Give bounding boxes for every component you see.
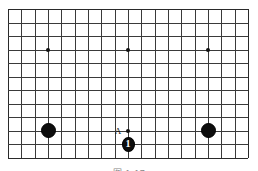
grid-line-vertical: [181, 9, 182, 158]
star-point-icon: [46, 48, 50, 52]
stone-black: [41, 123, 56, 138]
grid-line-horizontal: [8, 104, 248, 105]
go-board: 1A: [8, 9, 248, 158]
grid-line-vertical: [141, 9, 142, 158]
grid-line-horizontal: [8, 117, 248, 118]
grid-line-vertical: [88, 9, 89, 158]
grid-line-vertical: [101, 9, 102, 158]
star-point-icon: [126, 129, 130, 133]
grid-line-horizontal: [8, 36, 248, 37]
star-point-icon: [126, 48, 130, 52]
figure-caption-text: 图 1-17: [113, 168, 146, 171]
stone-move-number: 1: [126, 139, 131, 149]
grid-line-vertical: [128, 9, 129, 158]
grid-line-vertical: [21, 9, 22, 158]
go-diagram-screenshot: 1A 图 1-17: [0, 0, 258, 171]
grid-line-vertical: [195, 9, 196, 158]
stone-black: [201, 123, 216, 138]
grid-line-horizontal: [8, 77, 248, 78]
grid-line-vertical: [115, 9, 116, 158]
grid-line-vertical: [61, 9, 62, 158]
grid-line-horizontal: [8, 9, 248, 10]
star-point-icon: [206, 48, 210, 52]
grid-line-vertical: [8, 9, 9, 158]
grid-line-vertical: [75, 9, 76, 158]
grid-line-horizontal: [8, 158, 248, 159]
figure-caption: 图 1-17: [0, 162, 258, 171]
grid-line-vertical: [248, 9, 249, 158]
grid-line-horizontal: [8, 90, 248, 91]
grid-line-vertical: [35, 9, 36, 158]
grid-line-vertical: [155, 9, 156, 158]
grid-line-horizontal: [8, 63, 248, 64]
grid-line-vertical: [221, 9, 222, 158]
grid-line-vertical: [168, 9, 169, 158]
point-label-a: A: [115, 126, 122, 135]
grid-line-horizontal: [8, 23, 248, 24]
numbered-stone: 1: [122, 137, 135, 152]
grid-line-vertical: [235, 9, 236, 158]
